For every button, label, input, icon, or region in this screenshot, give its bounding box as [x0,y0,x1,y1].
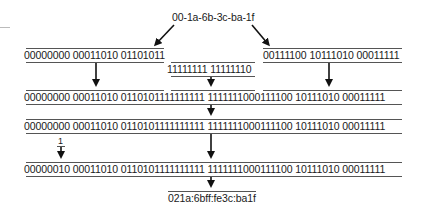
split-right-arrow [252,25,268,44]
arrows-layer [0,0,423,212]
split-left-arrow [156,25,174,44]
